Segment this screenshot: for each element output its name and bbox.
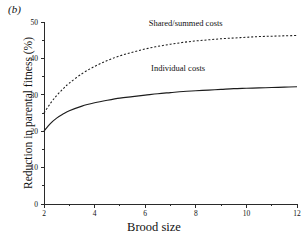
data-series-group — [44, 35, 297, 131]
series-label: Shared/summed costs — [149, 18, 223, 28]
series-line-dashed — [44, 35, 297, 113]
line-chart: 01020304050 24681012 Shared/summed costs… — [0, 0, 308, 239]
figure-panel-b: (b) 01020304050 24681012 Shared/summed c… — [0, 0, 308, 239]
series-annotations: Shared/summed costsIndividual costs — [149, 18, 223, 74]
y-tick-label: 0 — [34, 200, 38, 209]
x-tick-label: 8 — [194, 209, 198, 218]
axes — [44, 22, 297, 204]
y-axis-label: Reduction in parental fitness (%) — [22, 28, 34, 198]
x-axis-ticks: 24681012 — [42, 204, 301, 218]
x-axis-label: Brood size — [0, 220, 308, 235]
x-tick-label: 2 — [42, 209, 46, 218]
series-line-solid — [44, 87, 297, 131]
x-tick-label: 12 — [293, 209, 301, 218]
x-tick-label: 6 — [143, 209, 147, 218]
series-label: Individual costs — [151, 63, 205, 73]
x-tick-label: 4 — [93, 209, 97, 218]
y-tick-label: 50 — [31, 18, 39, 27]
x-tick-label: 10 — [243, 209, 251, 218]
